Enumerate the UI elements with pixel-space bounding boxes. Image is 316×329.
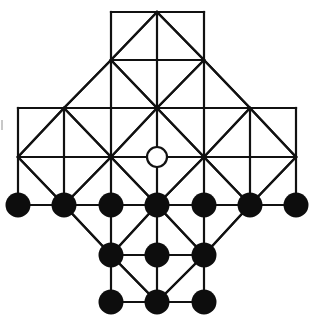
fox-piece[interactable] — [147, 147, 167, 167]
goose-piece[interactable] — [192, 243, 217, 268]
goose-piece[interactable] — [145, 193, 170, 218]
board-line — [111, 12, 157, 60]
goose-piece[interactable] — [238, 193, 263, 218]
board-line — [250, 108, 296, 157]
goose-piece[interactable] — [284, 193, 309, 218]
goose-piece[interactable] — [192, 193, 217, 218]
board-line — [18, 108, 64, 157]
goose-piece[interactable] — [52, 193, 77, 218]
goose-piece[interactable] — [99, 243, 124, 268]
board-line — [204, 108, 250, 157]
goose-piece[interactable] — [145, 243, 170, 268]
goose-piece[interactable] — [99, 290, 124, 315]
board-line — [157, 12, 204, 60]
board-line — [64, 108, 111, 157]
scan-artifact — [1, 120, 3, 130]
game-board — [0, 0, 316, 329]
goose-piece[interactable] — [99, 193, 124, 218]
goose-piece[interactable] — [145, 290, 170, 315]
goose-piece[interactable] — [192, 290, 217, 315]
goose-piece[interactable] — [6, 193, 31, 218]
board-line — [157, 60, 204, 108]
board-line — [111, 60, 157, 108]
board-line — [64, 60, 111, 108]
board-line — [204, 60, 250, 108]
